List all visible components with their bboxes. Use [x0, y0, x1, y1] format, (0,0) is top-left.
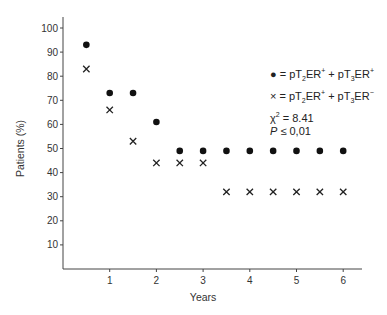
- svg-text:50: 50: [47, 143, 59, 154]
- svg-text:40: 40: [47, 167, 59, 178]
- legend: ● = pT2ER+ + pT3ER+ × = pT2ER+ + pT3ER− …: [270, 64, 374, 138]
- svg-text:6: 6: [340, 275, 346, 286]
- svg-text:100: 100: [41, 23, 58, 34]
- svg-text:5: 5: [294, 275, 300, 286]
- svg-text:Patients (%): Patients (%): [14, 120, 26, 177]
- svg-text:Years: Years: [190, 291, 216, 303]
- svg-text:80: 80: [47, 71, 59, 82]
- svg-text:30: 30: [47, 191, 59, 202]
- chi-square-annotation: χ2 = 8.41: [270, 108, 374, 125]
- svg-text:90: 90: [47, 47, 59, 58]
- svg-text:20: 20: [47, 215, 59, 226]
- svg-text:4: 4: [247, 275, 253, 286]
- p-value-annotation: P ≤ 0,01: [270, 124, 374, 138]
- svg-text:2: 2: [154, 275, 160, 286]
- svg-text:1: 1: [107, 275, 113, 286]
- svg-text:10: 10: [47, 239, 59, 250]
- axes: 102030405060708090100123456YearsPatients…: [14, 17, 362, 303]
- svg-text:3: 3: [200, 275, 206, 286]
- legend-dot-entry: ● = pT2ER+ + pT3ER+: [270, 64, 374, 86]
- svg-text:70: 70: [47, 95, 59, 106]
- svg-text:60: 60: [47, 119, 59, 130]
- legend-cross-entry: × = pT2ER+ + pT3ER−: [270, 86, 374, 108]
- scatter-chart: 102030405060708090100123456YearsPatients…: [0, 0, 387, 315]
